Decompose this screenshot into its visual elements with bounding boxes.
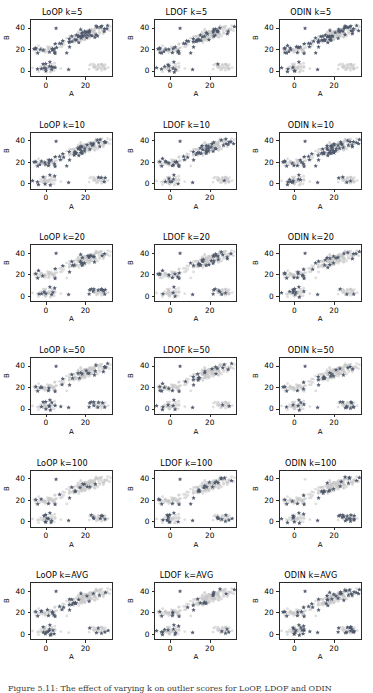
- x-tick-label: 20: [202, 531, 218, 540]
- y-tick-mark: [28, 140, 31, 141]
- x-tick-mark: [85, 77, 86, 80]
- y-tick-mark: [152, 183, 155, 184]
- y-tick-mark: [28, 183, 31, 184]
- y-tick-mark: [152, 366, 155, 367]
- scatter-canvas: [31, 358, 112, 414]
- x-tick-mark: [334, 415, 335, 418]
- x-tick-label: 0: [286, 81, 302, 90]
- y-tick-label: 20: [9, 158, 25, 167]
- subplot-ldof-k20: LDOF k=2002040B020A: [124, 225, 248, 338]
- subplot-odin-k5: ODIN k=502040B020A: [249, 0, 373, 113]
- x-tick-mark: [170, 640, 171, 643]
- y-tick-label: 40: [9, 136, 25, 145]
- plot-area: [279, 244, 362, 302]
- plot-area: [154, 132, 237, 190]
- x-axis-label: A: [279, 428, 362, 436]
- subplot-title: LoOP k=100: [0, 458, 124, 468]
- x-tick-mark: [170, 77, 171, 80]
- x-tick-label: 20: [326, 306, 342, 315]
- y-tick-label: 0: [9, 630, 25, 639]
- subplot-title: LoOP k=AVG: [0, 570, 124, 580]
- x-tick-label: 0: [38, 81, 54, 90]
- x-tick-label: 0: [286, 193, 302, 202]
- x-tick-mark: [294, 528, 295, 531]
- scatter-canvas: [280, 471, 361, 527]
- y-tick-label: 0: [133, 66, 149, 75]
- y-tick-mark: [276, 71, 279, 72]
- x-axis-label: A: [279, 315, 362, 323]
- y-axis-label: B: [252, 261, 260, 266]
- y-axis-label: B: [127, 373, 135, 378]
- x-tick-label: 0: [162, 193, 178, 202]
- x-tick-label: 0: [162, 531, 178, 540]
- y-tick-label: 0: [9, 404, 25, 413]
- scatter-canvas: [155, 583, 236, 639]
- y-axis-label: B: [127, 599, 135, 604]
- y-tick-label: 0: [133, 179, 149, 188]
- x-tick-mark: [85, 415, 86, 418]
- y-tick-label: 0: [258, 66, 274, 75]
- subplot-title: ODIN k=100: [249, 458, 373, 468]
- x-axis-label: A: [154, 203, 237, 211]
- y-tick-label: 0: [258, 404, 274, 413]
- y-tick-label: 20: [258, 383, 274, 392]
- y-tick-mark: [28, 387, 31, 388]
- y-tick-label: 40: [9, 249, 25, 258]
- x-tick-mark: [210, 190, 211, 193]
- y-tick-label: 0: [133, 404, 149, 413]
- y-tick-mark: [276, 49, 279, 50]
- x-tick-mark: [85, 302, 86, 305]
- y-tick-label: 0: [258, 630, 274, 639]
- plot-area: [30, 132, 113, 190]
- subplot-loop-k10: LoOP k=1002040B020A: [0, 113, 124, 226]
- y-axis-label: B: [3, 148, 11, 153]
- x-tick-mark: [46, 302, 47, 305]
- x-tick-mark: [210, 302, 211, 305]
- y-tick-mark: [28, 500, 31, 501]
- x-tick-mark: [210, 77, 211, 80]
- y-tick-mark: [28, 409, 31, 410]
- x-tick-mark: [46, 528, 47, 531]
- plot-area: [279, 357, 362, 415]
- scatter-canvas: [31, 245, 112, 301]
- x-tick-mark: [170, 528, 171, 531]
- y-tick-mark: [276, 296, 279, 297]
- y-tick-mark: [28, 612, 31, 613]
- subplot-ldof-kavg: LDOF k=AVG02040B020A: [124, 563, 248, 676]
- x-tick-mark: [334, 190, 335, 193]
- y-tick-label: 0: [133, 292, 149, 301]
- y-tick-mark: [28, 366, 31, 367]
- x-tick-mark: [294, 77, 295, 80]
- inlier-points: [155, 134, 236, 186]
- subplot-odin-k50: ODIN k=5002040B020A: [249, 338, 373, 451]
- y-axis-label: B: [127, 148, 135, 153]
- y-tick-label: 20: [133, 158, 149, 167]
- subplot-grid: LoOP k=502040B020ALDOF k=502040B020AODIN…: [0, 0, 373, 676]
- y-tick-label: 20: [258, 270, 274, 279]
- x-tick-label: 20: [202, 418, 218, 427]
- x-tick-label: 20: [326, 193, 342, 202]
- scatter-canvas: [155, 245, 236, 301]
- y-tick-label: 40: [9, 587, 25, 596]
- x-tick-label: 0: [286, 531, 302, 540]
- x-tick-label: 20: [202, 193, 218, 202]
- y-axis-label: B: [3, 486, 11, 491]
- x-tick-label: 20: [77, 644, 93, 653]
- y-tick-label: 20: [258, 158, 274, 167]
- x-axis-label: A: [279, 541, 362, 549]
- scatter-canvas: [155, 133, 236, 189]
- y-tick-label: 40: [258, 361, 274, 370]
- x-tick-mark: [46, 415, 47, 418]
- x-tick-label: 0: [286, 644, 302, 653]
- y-tick-label: 20: [258, 496, 274, 505]
- y-tick-label: 40: [133, 23, 149, 32]
- subplot-title: LoOP k=50: [0, 345, 124, 355]
- plot-area: [154, 470, 237, 528]
- plot-area: [279, 19, 362, 77]
- y-tick-mark: [276, 521, 279, 522]
- x-tick-label: 0: [38, 193, 54, 202]
- scatter-canvas: [280, 583, 361, 639]
- x-tick-label: 0: [162, 644, 178, 653]
- y-tick-mark: [28, 49, 31, 50]
- scatter-canvas: [155, 471, 236, 527]
